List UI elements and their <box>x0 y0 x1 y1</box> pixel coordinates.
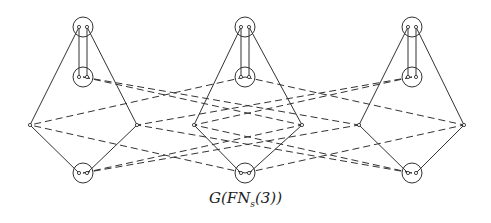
vertex-dot <box>357 123 360 126</box>
dashed-edge <box>83 125 302 173</box>
vertex-dot <box>462 123 465 126</box>
vertex-dot <box>192 123 195 126</box>
cluster-node <box>235 17 255 37</box>
dashed-edge <box>137 125 412 173</box>
vertex-dot <box>28 123 31 126</box>
solid-edge <box>249 125 302 173</box>
dashed-edge <box>245 125 464 173</box>
solid-edge <box>359 27 408 125</box>
solid-edge <box>359 125 408 173</box>
vertex-dot <box>239 171 242 174</box>
vertex-dot <box>77 75 80 78</box>
dashed-edge <box>30 77 245 125</box>
vertex-dot <box>85 171 88 174</box>
caption-tail: (3)) <box>255 189 282 207</box>
vertex-dot <box>85 75 88 78</box>
solid-edge <box>87 125 137 173</box>
vertex-dot <box>414 75 417 78</box>
vertex-dot <box>77 171 80 174</box>
solid-edge <box>30 27 79 125</box>
vertex-dot <box>300 123 303 126</box>
solid-edge <box>194 125 241 173</box>
dashed-edge <box>245 77 464 125</box>
vertex-dot <box>247 75 250 78</box>
graph-figure: G(FNs(3)) <box>0 0 491 223</box>
solid-edge <box>416 125 464 173</box>
vertex-dot <box>135 123 138 126</box>
vertex-dot <box>406 25 409 28</box>
vertex-dot <box>77 25 80 28</box>
cluster-node <box>402 17 422 37</box>
caption-main: G(FN <box>209 189 250 207</box>
vertex-dot <box>247 171 250 174</box>
vertex-dot <box>239 25 242 28</box>
dashed-edge <box>83 125 359 173</box>
dashed-edge <box>194 125 412 173</box>
vertex-dot <box>85 25 88 28</box>
vertex-dot <box>414 171 417 174</box>
solid-edge <box>30 125 79 173</box>
vertex-dot <box>414 25 417 28</box>
vertex-dot <box>239 75 242 78</box>
vertex-dot <box>406 171 409 174</box>
figure-caption: G(FNs(3)) <box>0 189 491 209</box>
cluster-node <box>73 17 93 37</box>
vertex-dot <box>406 75 409 78</box>
solid-edge <box>249 27 302 125</box>
vertex-dot <box>247 25 250 28</box>
solid-edge <box>416 27 464 125</box>
dashed-edge <box>30 125 245 173</box>
